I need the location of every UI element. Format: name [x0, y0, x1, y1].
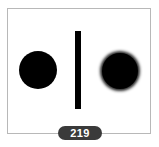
- sharp-circle: [19, 51, 57, 89]
- number-badge: 219: [58, 126, 102, 140]
- vertical-divider-bar: [75, 31, 81, 109]
- blurred-circle: [102, 53, 138, 89]
